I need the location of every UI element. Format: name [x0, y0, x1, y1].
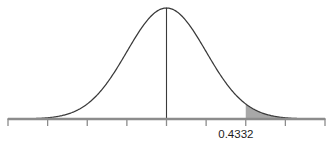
normal-distribution-figure: 0.4332	[0, 0, 333, 147]
bell-curve-chart: 0.4332	[0, 0, 333, 147]
shaded-area-label: 0.4332	[218, 128, 253, 140]
